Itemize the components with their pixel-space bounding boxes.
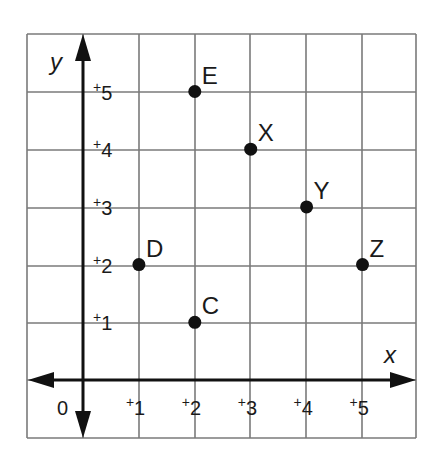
x-tick-label: +5 <box>350 394 369 419</box>
x-tick-label: +3 <box>238 394 257 419</box>
x-axis-arrow-left-icon <box>28 372 54 388</box>
y-axis-arrow-down-icon <box>75 411 91 438</box>
point-label-e: E <box>202 62 218 89</box>
point-x <box>244 143 257 156</box>
origin-label: 0 <box>57 397 68 419</box>
axes: xy <box>28 34 416 438</box>
tick-labels: 0+1+2+3+4+5+1+2+3+4+5 <box>57 79 369 420</box>
y-tick-label: +5 <box>93 79 112 104</box>
x-axis-arrow-right-icon <box>390 372 416 388</box>
x-tick-label: +2 <box>182 394 201 419</box>
point-label-y: Y <box>314 177 330 204</box>
point-z <box>356 258 369 271</box>
data-points: CDEXYZ <box>132 62 384 329</box>
point-e <box>188 85 201 98</box>
y-tick-label: +4 <box>93 136 112 161</box>
point-label-c: C <box>202 292 219 319</box>
point-c <box>188 316 201 329</box>
point-label-d: D <box>146 235 163 262</box>
point-label-z: Z <box>370 235 385 262</box>
y-tick-label: +2 <box>93 252 112 277</box>
point-y <box>300 200 313 213</box>
x-tick-label: +1 <box>126 394 145 419</box>
x-axis-label: x <box>383 341 397 368</box>
y-axis-arrow-up-icon <box>75 34 91 61</box>
y-axis-label: y <box>48 48 64 75</box>
y-tick-label: +1 <box>93 309 112 334</box>
point-d <box>132 258 145 271</box>
y-tick-label: +3 <box>93 194 112 219</box>
x-tick-label: +4 <box>294 394 313 419</box>
point-label-x: X <box>258 119 274 146</box>
grid-lines <box>27 34 416 438</box>
coordinate-plane: xy 0+1+2+3+4+5+1+2+3+4+5 CDEXYZ <box>0 0 441 466</box>
